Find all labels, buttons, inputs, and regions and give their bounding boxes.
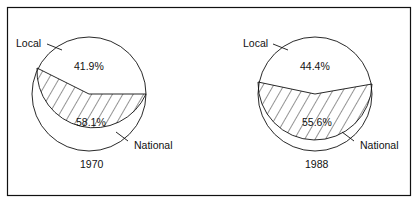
pct-local-1988: 44.4% — [300, 60, 330, 72]
year-1970: 1970 — [80, 158, 104, 170]
pie-1988: Local 44.4% 55.6% National 1988 — [243, 37, 399, 170]
label-local-1970: Local — [16, 37, 41, 49]
label-national-1970: National — [134, 139, 173, 151]
pie-1970: Local 41.9% 58.1% National 1970 — [16, 37, 173, 170]
chart-figure: Local 41.9% 58.1% National 1970 Local 44… — [0, 0, 418, 202]
pct-national-1970: 58.1% — [76, 116, 106, 128]
label-local-1988: Local — [243, 37, 268, 49]
pct-local-1970: 41.9% — [74, 60, 104, 72]
year-1988: 1988 — [305, 158, 329, 170]
label-national-1988: National — [360, 139, 399, 151]
pct-national-1988: 55.6% — [302, 116, 332, 128]
